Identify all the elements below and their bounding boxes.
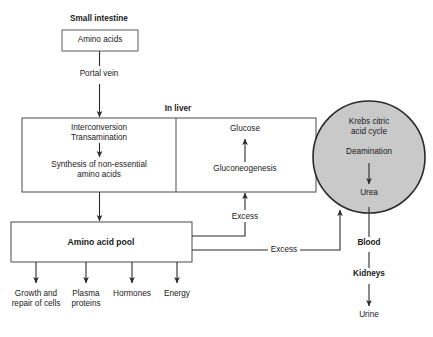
portal-vein-label: Portal vein: [80, 69, 119, 79]
deamination-label: Deamination: [346, 147, 392, 157]
excess-lower-connector-right: [300, 210, 340, 250]
synthesis-label-line2: amino acids: [77, 170, 121, 180]
urea-label: Urea: [360, 188, 378, 198]
amino-acids-label: Amino acids: [78, 35, 123, 45]
excess-upper-connector: [192, 222, 245, 236]
output-label-1-line2: repair of cells: [12, 299, 61, 309]
kidneys-label: Kidneys: [353, 269, 385, 279]
excess-upper-label: Excess: [232, 212, 258, 222]
blood-label: Blood: [357, 238, 380, 248]
krebs-label-line2: acid cycle: [351, 127, 387, 137]
gluconeogenesis-label: Gluconeogenesis: [213, 164, 276, 174]
output-label-1-line1: Growth and: [15, 289, 57, 299]
output-label-3-line1: Hormones: [113, 289, 151, 299]
small-intestine-label: Small intestine: [70, 14, 128, 24]
synthesis-label-line1: Synthesis of non-essential: [51, 160, 147, 170]
in-liver-label: In liver: [165, 104, 191, 114]
liver-box: [22, 118, 316, 192]
output-label-4-line1: Energy: [164, 289, 190, 299]
interconversion-label: Interconversion: [71, 123, 127, 133]
amino-acid-pool-label: Amino acid pool: [68, 237, 135, 247]
urine-label: Urine: [359, 310, 379, 320]
krebs-label-line1: Krebs citric: [349, 117, 390, 127]
output-label-2-line1: Plasma: [72, 289, 99, 299]
glucose-label: Glucose: [230, 124, 260, 134]
output-label-2-line2: proteins: [71, 299, 100, 309]
transamination-label: Transamination: [71, 133, 127, 143]
excess-lower-label: Excess: [271, 245, 297, 255]
